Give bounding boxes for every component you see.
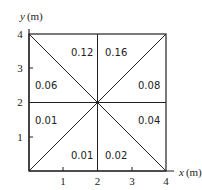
region-value: 0.06 <box>35 80 57 91</box>
region-value: 0.16 <box>105 47 127 58</box>
region-value: 0.02 <box>105 150 127 161</box>
y-tick-label: 4 <box>17 28 23 40</box>
region-value: 0.04 <box>138 115 160 126</box>
x-axis-label: x(m) <box>178 166 202 179</box>
region-value: 0.01 <box>71 150 93 161</box>
x-tick-label: 2 <box>95 175 101 187</box>
y-tick-label: 2 <box>17 96 23 108</box>
y-tick-label: 3 <box>17 62 23 74</box>
region-value: 0.08 <box>138 80 160 91</box>
y-axis-label: y(m) <box>19 10 43 23</box>
x-tick-label: 4 <box>163 175 169 187</box>
grid-diagram: 1 2 3 4 1 2 3 4 y(m) x(m) 0.12 0.16 0.06… <box>0 0 202 190</box>
x-tick-label: 1 <box>60 175 66 187</box>
region-value: 0.12 <box>71 47 93 58</box>
region-value: 0.01 <box>35 115 57 126</box>
x-tick-label: 3 <box>129 175 135 187</box>
y-tick-label: 1 <box>17 131 23 143</box>
